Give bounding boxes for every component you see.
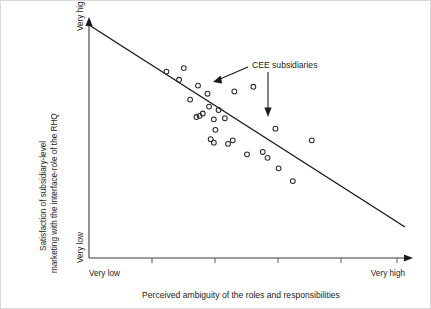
scatter-point — [207, 104, 212, 109]
annotation-arrowhead-lower-icon — [264, 107, 271, 117]
scatter-plot-figure: CEE subsidiaries Very high Very low Sati… — [0, 0, 431, 309]
scatter-point — [181, 66, 186, 71]
scatter-point — [196, 83, 201, 88]
scatter-point — [245, 152, 250, 157]
scatter-point — [164, 69, 169, 74]
y-axis-high-label: Very high — [76, 1, 85, 31]
annotation-line-upper — [220, 67, 248, 79]
x-axis-low-label: Very low — [89, 269, 120, 278]
scatter-point — [251, 84, 256, 89]
chart-canvas: CEE subsidiaries Very high Very low Sati… — [1, 1, 431, 309]
y-axis-title-line2: marketing with the interface-role of the… — [50, 113, 59, 273]
scatter-point — [205, 91, 210, 96]
y-axis-low-label: Very low — [76, 232, 85, 263]
y-axis-title-line1: Satisfaction of subsidiary-level — [39, 141, 48, 251]
scatter-point — [188, 97, 193, 102]
x-axis — [89, 254, 413, 263]
y-axis — [85, 17, 92, 258]
x-axis-title: Perceived ambiguity of the roles and res… — [142, 290, 340, 300]
annotation-label-cee-subsidiaries: CEE subsidiaries — [252, 60, 317, 70]
scatter-point — [232, 89, 237, 94]
scatter-point — [276, 166, 281, 171]
scatter-point — [230, 138, 235, 143]
scatter-point — [213, 127, 218, 132]
trend-line — [89, 25, 405, 227]
scatter-point — [265, 155, 270, 160]
scatter-point — [260, 150, 265, 155]
annotation-leader-lower — [264, 72, 271, 117]
scatter-point — [177, 77, 182, 82]
scatter-point — [290, 179, 295, 184]
scatter-point — [222, 116, 227, 121]
annotation-arrowhead-upper-icon — [213, 76, 222, 84]
scatter-point — [226, 141, 231, 146]
annotation-leader-upper — [213, 67, 248, 83]
x-axis-high-label: Very high — [371, 269, 406, 278]
x-axis-arrowhead-icon — [404, 254, 413, 261]
scatter-point — [211, 140, 216, 145]
scatter-point — [211, 117, 216, 122]
scatter-points-group — [164, 66, 314, 184]
y-axis-arrowhead-icon — [85, 17, 92, 26]
scatter-point — [309, 138, 314, 143]
scatter-point — [273, 126, 278, 131]
